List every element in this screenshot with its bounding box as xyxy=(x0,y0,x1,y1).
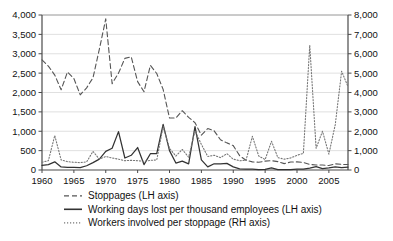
y-axis-right-tick-label: 4,000 xyxy=(354,87,378,98)
y-axis-left-tick-label: 0 xyxy=(31,164,36,175)
line-chart: 05001,0001,5002,0002,5003,0003,5004,0000… xyxy=(0,0,393,241)
series-line-3 xyxy=(42,45,348,162)
y-axis-left-tick-label: 2,000 xyxy=(12,87,36,98)
series-group xyxy=(42,19,348,170)
legend-label-3: Workers involved per stoppage (RH axis) xyxy=(88,217,270,228)
y-axis-left-tick-label: 4,000 xyxy=(12,9,36,20)
x-axis-tick-label: 1975 xyxy=(127,175,148,186)
y-axis-right-tick-label: 0 xyxy=(354,164,359,175)
y-axis-left-tick-label: 1,500 xyxy=(12,106,36,117)
x-axis-tick-label: 1965 xyxy=(63,175,84,186)
x-axis-tick-label: 1990 xyxy=(223,175,244,186)
x-axis-tick-label: 2000 xyxy=(286,175,307,186)
legend-group: Stoppages (LH axis)Working days lost per… xyxy=(64,190,322,228)
y-axis-right-tick-label: 7,000 xyxy=(354,29,378,40)
y-axis-left-tick-label: 3,500 xyxy=(12,29,36,40)
y-axis-left-tick-label: 3,000 xyxy=(12,48,36,59)
legend-label-2: Working days lost per thousand employees… xyxy=(88,204,322,215)
y-axis-left-tick-label: 1,000 xyxy=(12,126,36,137)
axes-group xyxy=(39,15,352,173)
y-axis-right-tick-label: 2,000 xyxy=(354,126,378,137)
x-axis-tick-label: 1960 xyxy=(31,175,52,186)
y-axis-right-tick-label: 1,000 xyxy=(354,145,378,156)
chart-container: 05001,0001,5002,0002,5003,0003,5004,0000… xyxy=(0,0,393,241)
y-axis-right-tick-label: 6,000 xyxy=(354,48,378,59)
x-axis-tick-label: 1985 xyxy=(191,175,212,186)
x-axis-tick-label: 1995 xyxy=(255,175,276,186)
y-axis-right-tick-label: 5,000 xyxy=(354,68,378,79)
x-axis-tick-label: 1980 xyxy=(159,175,180,186)
x-axis-tick-label: 1970 xyxy=(95,175,116,186)
y-axis-right-tick-label: 3,000 xyxy=(354,106,378,117)
y-axis-left-tick-label: 2,500 xyxy=(12,68,36,79)
y-axis-left-tick-label: 500 xyxy=(20,145,36,156)
ticklabels-group: 05001,0001,5002,0002,5003,0003,5004,0000… xyxy=(12,9,378,186)
x-axis-tick-label: 2005 xyxy=(318,175,339,186)
legend-label-1: Stoppages (LH axis) xyxy=(88,190,179,201)
y-axis-right-tick-label: 8,000 xyxy=(354,9,378,20)
